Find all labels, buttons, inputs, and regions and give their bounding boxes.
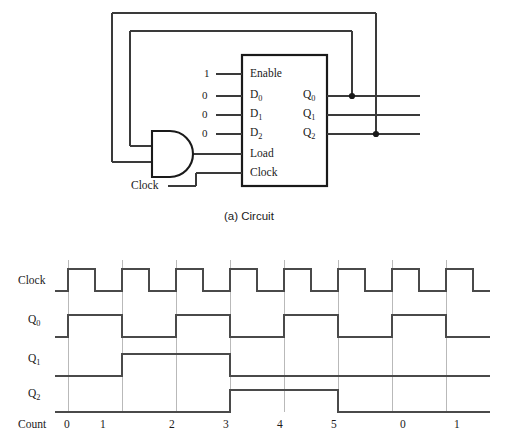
pin-label-d1-sub: 1: [258, 113, 262, 122]
counter-figure: 1 0 0 0 Enable D0 D1 D2 Load Clock Q0 Q1…: [0, 0, 506, 442]
waveform-label-q1-sub: 1: [36, 358, 40, 367]
input-value-d2: 0: [202, 128, 208, 139]
count-value-4: 4: [277, 419, 283, 431]
waveform-label-q2: Q2: [28, 388, 40, 403]
pin-label-d0: D0: [250, 89, 262, 104]
waveform-label-q0-sub: 0: [36, 319, 40, 328]
caption-circuit: (a) Circuit: [224, 211, 274, 223]
count-axis-label: Count: [18, 419, 46, 431]
count-value-1: 1: [100, 419, 106, 431]
input-value-enable: 1: [204, 68, 210, 79]
pin-label-q0: Q0: [303, 89, 315, 104]
waveform-q0: [55, 315, 490, 337]
count-value-5: 5: [331, 419, 337, 431]
count-value-7: 1: [454, 419, 460, 431]
count-value-6: 0: [400, 419, 406, 431]
pin-label-d2: D2: [250, 127, 262, 142]
pin-label-q2-sub: 2: [311, 132, 315, 141]
waveform-clock: [55, 269, 490, 291]
pin-label-enable: Enable: [250, 68, 282, 80]
waveform-label-q1: Q1: [28, 353, 40, 368]
waveform-label-q2-sub: 2: [36, 393, 40, 402]
pin-label-q1-sub: 1: [311, 113, 315, 122]
junction-dot-q0: [349, 93, 355, 99]
pin-label-d2-sub: 2: [258, 132, 262, 141]
pin-label-clock: Clock: [250, 167, 277, 179]
pin-label-d0-sub: 0: [258, 94, 262, 103]
input-value-d1: 0: [202, 109, 208, 120]
pin-label-q2: Q2: [303, 127, 315, 142]
external-clock-label: Clock: [131, 180, 158, 192]
waveform-label-clock: Clock: [18, 275, 45, 287]
count-value-2: 2: [169, 419, 175, 431]
waveform-q2: [55, 390, 490, 412]
timing-diagram: [0, 252, 506, 434]
waveform-q1: [55, 354, 490, 376]
waveform-label-q0: Q0: [28, 314, 40, 329]
pin-label-q1: Q1: [303, 108, 315, 123]
count-value-0: 0: [64, 419, 70, 431]
pin-label-load: Load: [250, 148, 274, 160]
input-value-d0: 0: [202, 90, 208, 101]
count-value-3: 3: [223, 419, 229, 431]
junction-dot-q2: [373, 131, 379, 137]
pin-label-d1: D1: [250, 108, 262, 123]
and-gate-icon: [152, 131, 193, 177]
pin-label-q0-sub: 0: [311, 94, 315, 103]
